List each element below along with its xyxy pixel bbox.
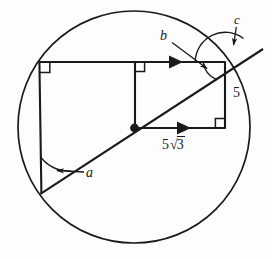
angle-arc-c (195, 32, 243, 62)
leader-arrow-a (57, 171, 84, 173)
radical-group: √3 (169, 138, 185, 152)
right-angle-mark-top-middle (135, 62, 144, 71)
right-angle-mark-bottom-right (215, 119, 224, 128)
label-angle-b: b (160, 29, 167, 43)
geometry-diagram: a b c 5 5√3 (0, 0, 272, 259)
label-angle-a: a (86, 166, 93, 180)
arrowhead-top-horizontal (169, 56, 183, 69)
arrowhead-center-horizontal (177, 122, 191, 135)
segment-left-vertical (39, 62, 41, 194)
label-coefficient: 5 (162, 137, 169, 152)
angle-arc-a (41, 158, 71, 171)
label-side-vertical-5: 5 (233, 86, 240, 100)
right-angle-mark-top-left (40, 62, 50, 72)
center-point-dot (130, 124, 139, 133)
angle-arc-b (203, 62, 216, 79)
label-side-horizontal-5root3: 5√3 (162, 138, 185, 152)
radicand: 3 (177, 136, 185, 152)
leader-arrow-c (234, 27, 237, 45)
label-angle-c: c (234, 13, 240, 26)
geometry-canvas (0, 0, 272, 259)
